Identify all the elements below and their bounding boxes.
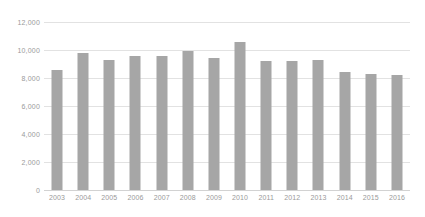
bar[interactable] <box>52 70 63 190</box>
x-axis-tick-label: 2009 <box>206 194 222 201</box>
bar-slot <box>149 22 175 190</box>
x-axis-tick-label: 2010 <box>232 194 248 201</box>
y-axis-tick-label: 4,000 <box>0 131 40 138</box>
y-axis-tick-label: 2,000 <box>0 159 40 166</box>
x-axis-tick-label: 2003 <box>49 194 65 201</box>
x-axis-tick-label: 2015 <box>363 194 379 201</box>
y-axis-tick-label: 6,000 <box>0 103 40 110</box>
bar[interactable] <box>391 75 402 191</box>
bar[interactable] <box>104 60 115 190</box>
bar[interactable] <box>313 60 324 190</box>
bar-chart: 02,0004,0006,0008,00010,00012,000 200320… <box>0 0 425 217</box>
bar-series <box>44 22 410 190</box>
x-axis-tick-label: 2011 <box>258 194 273 201</box>
bar-slot <box>332 22 358 190</box>
bar[interactable] <box>339 72 350 190</box>
x-axis-tick-label: 2005 <box>101 194 117 201</box>
bar[interactable] <box>130 56 141 190</box>
plot-area <box>44 22 410 190</box>
bar-slot <box>44 22 70 190</box>
bar[interactable] <box>287 61 298 190</box>
y-axis-tick-label: 8,000 <box>0 75 40 82</box>
x-axis-tick-label: 2004 <box>75 194 91 201</box>
y-axis-tick-label: 10,000 <box>0 47 40 54</box>
x-axis-tick-label: 2016 <box>389 194 405 201</box>
bar[interactable] <box>365 74 376 190</box>
bar[interactable] <box>261 61 272 191</box>
x-axis-tick-label: 2013 <box>311 194 327 201</box>
x-axis-tick-label: 2006 <box>128 194 144 201</box>
x-axis-tick-label: 2008 <box>180 194 196 201</box>
x-axis-tick-label: 2012 <box>284 194 300 201</box>
bar-slot <box>279 22 305 190</box>
bar[interactable] <box>182 51 193 190</box>
bar[interactable] <box>235 42 246 190</box>
x-axis-tick-label: 2014 <box>337 194 353 201</box>
bar-slot <box>305 22 331 190</box>
bar-slot <box>358 22 384 190</box>
bar-slot <box>227 22 253 190</box>
bar-slot <box>253 22 279 190</box>
bar-slot <box>175 22 201 190</box>
bar-slot <box>201 22 227 190</box>
bar[interactable] <box>78 53 89 190</box>
bar-slot <box>384 22 410 190</box>
axis-baseline <box>44 190 410 191</box>
y-axis-tick-label: 12,000 <box>0 19 40 26</box>
bar-slot <box>96 22 122 190</box>
x-axis-tick-label: 2007 <box>154 194 170 201</box>
bar-slot <box>70 22 96 190</box>
bar-slot <box>122 22 148 190</box>
bar[interactable] <box>156 56 167 190</box>
bar[interactable] <box>208 58 219 190</box>
y-axis-tick-label: 0 <box>0 187 40 194</box>
